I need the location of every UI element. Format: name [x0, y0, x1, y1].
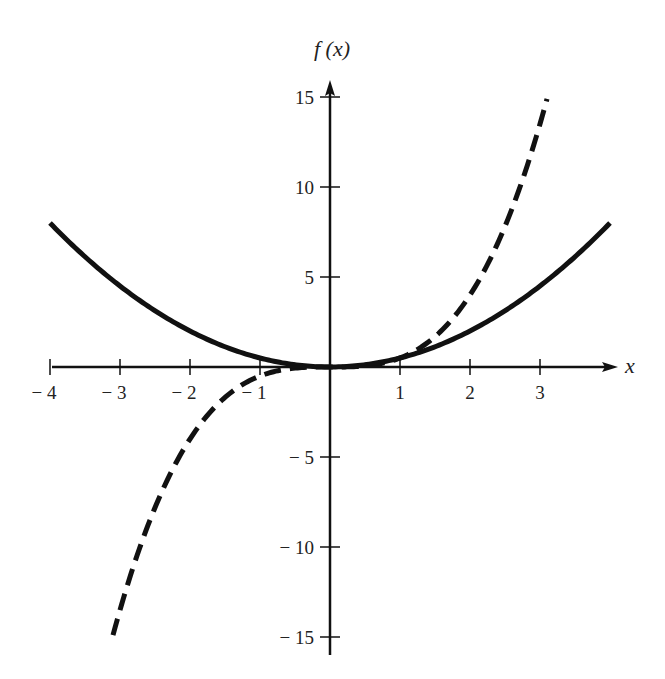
y-tick-label: 15	[295, 87, 314, 108]
x-tick-label: 2	[465, 382, 475, 403]
x-tick-label: − 2	[172, 382, 197, 403]
plot-area: − 4− 3− 2− 112315105− 5− 10− 15xf (x)	[0, 0, 665, 679]
x-tick-label: − 4	[32, 382, 57, 403]
x-axis-label: x	[624, 353, 635, 378]
x-tick-label: 1	[395, 382, 405, 403]
x-tick-label: − 1	[242, 382, 267, 403]
y-tick-label: − 5	[289, 447, 314, 468]
y-tick-label: − 15	[280, 627, 314, 648]
y-axis-label: f (x)	[314, 36, 350, 61]
axes	[50, 80, 618, 655]
x-tick-label: − 3	[102, 382, 127, 403]
y-tick-label: − 10	[280, 537, 314, 558]
y-tick-label: 5	[305, 267, 315, 288]
labels: − 4− 3− 2− 112315105− 5− 10− 15xf (x)	[32, 36, 635, 648]
x-tick-label: 3	[535, 382, 545, 403]
y-tick-label: 10	[295, 177, 314, 198]
